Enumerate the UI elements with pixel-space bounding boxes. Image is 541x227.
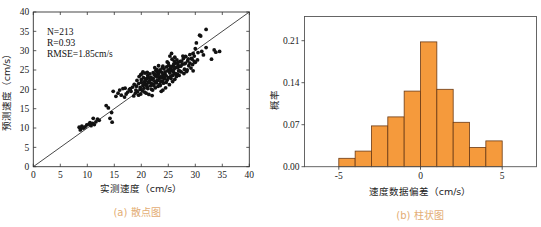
- data-point: [143, 90, 147, 94]
- histogram-bar: [371, 126, 387, 167]
- x-tick-label: 35: [218, 170, 228, 180]
- data-point: [144, 79, 148, 83]
- data-point: [218, 50, 222, 54]
- data-point: [210, 57, 214, 61]
- histogram-y-label: 概率: [269, 90, 280, 110]
- data-point: [152, 84, 156, 88]
- x-tick-label: 0: [31, 170, 36, 180]
- data-point: [147, 92, 151, 96]
- x-tick-label: 30: [191, 170, 201, 180]
- data-point: [171, 68, 175, 72]
- data-point: [182, 72, 186, 76]
- data-point: [163, 77, 167, 81]
- data-point: [180, 59, 184, 63]
- data-point: [158, 84, 162, 88]
- data-point: [108, 116, 112, 120]
- data-point: [137, 93, 141, 97]
- data-point: [155, 68, 159, 72]
- data-point: [132, 82, 136, 86]
- histogram-bar: [437, 89, 453, 166]
- data-point: [167, 83, 171, 87]
- x-tick-label: 0: [418, 171, 423, 181]
- data-point: [153, 72, 157, 76]
- x-tick-label: 10: [83, 170, 93, 180]
- data-point: [138, 86, 142, 90]
- y-tick-label: 0.00: [283, 162, 300, 172]
- data-point: [145, 70, 149, 74]
- histogram-bar: [339, 158, 355, 166]
- x-tick-label: 20: [137, 170, 147, 180]
- data-point: [183, 62, 187, 66]
- data-point: [176, 60, 180, 64]
- y-tick-label: 20: [20, 85, 30, 95]
- histogram-bar: [470, 148, 486, 167]
- histogram-bar: [453, 122, 469, 166]
- data-point: [157, 64, 161, 68]
- data-point: [178, 69, 182, 73]
- data-point: [196, 58, 200, 62]
- data-point: [214, 50, 218, 54]
- y-tick-label: 0.14: [283, 78, 300, 88]
- data-point: [142, 82, 146, 86]
- histogram-bar: [421, 42, 437, 167]
- data-point: [106, 106, 110, 110]
- data-point: [188, 61, 192, 65]
- data-point: [200, 50, 204, 54]
- y-tick-label: 30: [20, 46, 30, 56]
- histogram-x-label: 速度数据偏差（cm/s）: [369, 186, 472, 197]
- data-point: [172, 59, 176, 63]
- data-point: [171, 80, 175, 84]
- data-point: [185, 68, 189, 72]
- data-point: [78, 128, 82, 132]
- y-tick-label: 25: [20, 65, 30, 75]
- data-point: [91, 116, 95, 120]
- data-point: [202, 53, 206, 57]
- data-point: [123, 86, 127, 90]
- data-point: [193, 47, 197, 51]
- stat-rmse: RMSE=1.85cm/s: [47, 49, 113, 59]
- data-point: [173, 55, 177, 59]
- data-point: [196, 51, 200, 55]
- stat-r: R=0.93: [47, 38, 76, 48]
- x-tick-label: 5: [500, 171, 505, 181]
- data-point: [164, 80, 168, 84]
- x-tick-label: 40: [245, 170, 255, 180]
- data-point: [110, 120, 114, 124]
- data-point: [150, 94, 154, 98]
- scatter-y-label: 预测速度（cm/s）: [1, 49, 12, 132]
- histogram: -5050.000.070.140.21 速度数据偏差（cm/s） 概率 (b)…: [269, 17, 537, 222]
- data-point: [186, 57, 190, 61]
- y-tick-label: 0: [25, 162, 30, 172]
- data-point: [173, 72, 177, 76]
- data-point: [192, 60, 196, 64]
- data-point: [163, 70, 167, 74]
- scatter-x-label: 实测速度（cm/s）: [100, 183, 183, 194]
- scatter-plot: 05101520253035400510152025303540 N=213 R…: [1, 7, 254, 218]
- data-point: [142, 86, 146, 90]
- data-point: [148, 80, 152, 84]
- data-point: [114, 94, 118, 98]
- data-point: [204, 46, 208, 50]
- data-point: [161, 64, 165, 68]
- data-point: [146, 76, 150, 80]
- histogram-bar: [355, 151, 371, 167]
- data-point: [111, 89, 115, 93]
- data-point: [119, 93, 123, 97]
- data-point: [118, 88, 122, 92]
- data-point: [176, 66, 180, 70]
- data-point: [134, 88, 138, 92]
- x-tick-label: -5: [335, 171, 343, 181]
- x-tick-label: 15: [110, 170, 120, 180]
- data-point: [151, 77, 155, 81]
- data-point: [166, 61, 170, 65]
- data-point: [169, 75, 173, 79]
- data-point: [179, 64, 183, 68]
- scatter-caption: (a) 散点图: [113, 206, 160, 218]
- histogram-bars: [339, 42, 502, 167]
- data-point: [129, 87, 133, 91]
- x-tick-label: 5: [58, 170, 63, 180]
- data-point: [199, 34, 203, 38]
- data-point: [110, 111, 114, 115]
- y-tick-label: 15: [20, 104, 30, 114]
- data-point: [181, 54, 185, 58]
